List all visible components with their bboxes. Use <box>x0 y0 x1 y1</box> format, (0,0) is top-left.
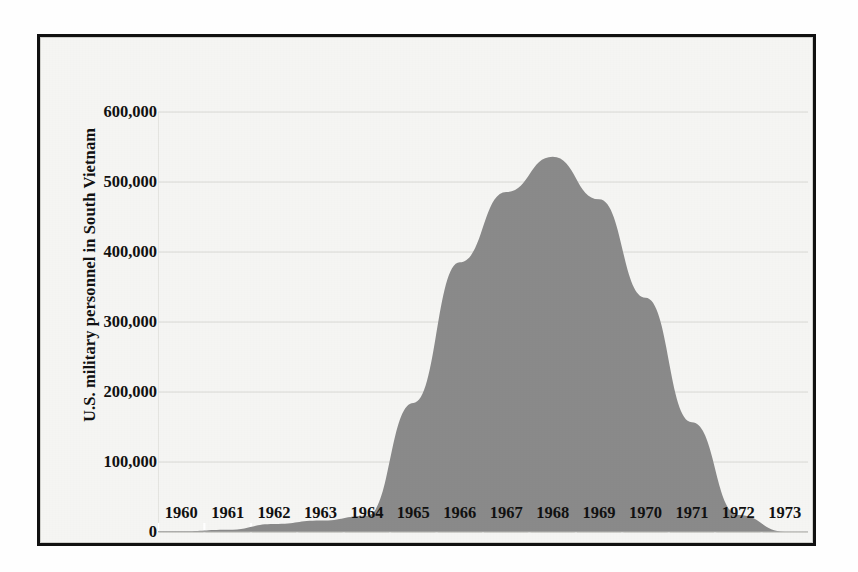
x-tick-label: 1970 <box>629 503 662 523</box>
x-tick-label: 1973 <box>768 503 801 523</box>
y-tick-label: 400,000 <box>103 242 157 262</box>
y-axis-tick-labels: 0100,000200,000300,000400,000500,000600,… <box>65 37 157 543</box>
x-tick-label: 1971 <box>675 503 708 523</box>
y-tick-label: 300,000 <box>103 312 157 332</box>
x-tick-label: 1963 <box>304 503 337 523</box>
x-tick-label: 1972 <box>722 503 755 523</box>
figure-root: U.S. military personnel in South Vietnam… <box>0 0 858 572</box>
x-tick-label: 1966 <box>443 503 476 523</box>
x-tick-label: 1969 <box>583 503 616 523</box>
plot-area <box>158 42 808 537</box>
x-tick-label: 1965 <box>397 503 430 523</box>
area-chart-svg <box>158 42 808 537</box>
x-tick-label: 1962 <box>258 503 291 523</box>
y-tick-label: 200,000 <box>103 382 157 402</box>
x-tick-label: 1968 <box>536 503 569 523</box>
y-tick-label: 100,000 <box>103 452 157 472</box>
area-series-fill <box>158 157 808 532</box>
x-tick-label: 1967 <box>490 503 523 523</box>
y-tick-label: 500,000 <box>103 172 157 192</box>
chart-inner: U.S. military personnel in South Vietnam… <box>40 37 813 543</box>
x-tick-label: 1961 <box>211 503 244 523</box>
x-tick-label: 1960 <box>165 503 198 523</box>
x-axis-tick-labels: 1960196119621963196419651966196719681969… <box>158 503 818 537</box>
chart-frame: U.S. military personnel in South Vietnam… <box>37 34 816 546</box>
y-tick-label: 0 <box>149 522 157 542</box>
x-tick-label: 1964 <box>350 503 383 523</box>
y-tick-label: 600,000 <box>103 102 157 122</box>
